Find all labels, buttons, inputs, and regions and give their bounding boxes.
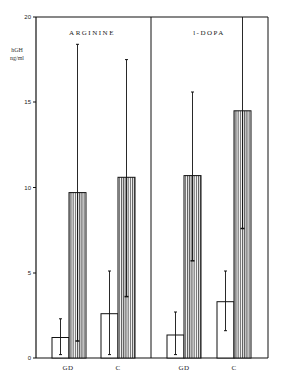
- ytick-5: 5: [28, 270, 32, 276]
- bar-chart: 0 5 10 15 20 hGH ng/ml ARGININE l-DOPA: [0, 0, 282, 383]
- ytick-20: 20: [24, 14, 31, 20]
- ldopa-c-group: [217, 17, 251, 358]
- arginine-gd-group: [52, 44, 86, 358]
- y-axis: 0 5 10 15 20 hGH ng/ml: [10, 14, 36, 361]
- category-label-c-ldopa: C: [231, 364, 236, 372]
- ldopa-gd-group: [167, 92, 201, 358]
- ytick-0: 0: [28, 355, 32, 361]
- y-axis-label-units-top: hGH: [11, 47, 23, 53]
- panel-title-arginine: ARGININE: [69, 29, 115, 37]
- category-label-c-arginine: C: [115, 364, 120, 372]
- ytick-15: 15: [24, 99, 31, 105]
- ytick-10: 10: [24, 185, 31, 191]
- arginine-c-group: [101, 60, 135, 358]
- category-label-gd-arginine: GD: [62, 364, 73, 372]
- y-axis-label-units-bottom: ng/ml: [10, 55, 24, 61]
- category-label-gd-ldopa: GD: [178, 364, 189, 372]
- panel-title-ldopa: l-DOPA: [193, 29, 225, 37]
